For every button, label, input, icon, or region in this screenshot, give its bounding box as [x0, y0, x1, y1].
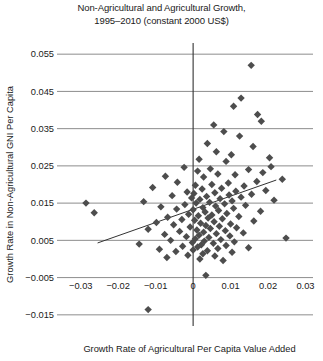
data-point-marker [157, 203, 164, 210]
x-tick-label: −0.01 [144, 281, 168, 291]
y-tick-label: 0.005 [31, 236, 54, 246]
data-point-marker [228, 151, 235, 158]
data-point-marker [222, 158, 229, 165]
data-point-marker [91, 209, 98, 216]
gridlines [62, 54, 313, 315]
data-point-marker [211, 252, 218, 259]
data-point-marker [170, 221, 177, 228]
x-tick-label: −0.02 [106, 281, 130, 291]
data-point-marker [214, 245, 221, 252]
x-tick-label: 0.03 [296, 281, 314, 291]
data-point-marker [228, 249, 235, 256]
data-point-marker [214, 170, 221, 177]
x-tick-label: 0.02 [259, 281, 277, 291]
data-point-marker [211, 189, 218, 196]
data-point-marker [245, 166, 252, 173]
data-point-marker [173, 205, 180, 212]
data-point-marker [236, 132, 243, 139]
data-point-marker [247, 62, 254, 69]
data-point-marker [266, 154, 273, 161]
data-point-marker [167, 237, 174, 244]
data-point-marker [240, 229, 247, 236]
data-point-marker [257, 208, 264, 215]
data-point-marker [221, 200, 228, 207]
data-point-marker [149, 184, 156, 191]
data-point-marker [253, 178, 260, 185]
x-tick-label: −0.03 [69, 281, 93, 291]
data-point-marker [195, 155, 202, 162]
data-point-marker [222, 227, 229, 234]
data-point-marker [144, 306, 151, 313]
data-point-marker [206, 199, 213, 206]
data-point-marker [217, 236, 224, 243]
data-point-marker [235, 213, 242, 220]
x-axis-ticks: −0.03−0.02−0.0100.010.020.03 [69, 281, 315, 291]
data-point-marker [226, 232, 233, 239]
data-point-marker [267, 163, 274, 170]
data-point-marker [174, 179, 181, 186]
data-point-marker [213, 230, 220, 237]
y-tick-label: 0.025 [31, 161, 54, 171]
data-point-marker [183, 233, 190, 240]
data-point-marker [161, 231, 168, 238]
y-axis-ticks: −0.015−0.0050.0050.0150.0250.0350.0450.0… [25, 49, 62, 320]
data-point-marker [213, 148, 220, 155]
data-point-marker [172, 248, 179, 255]
y-tick-label: 0.055 [31, 49, 54, 59]
data-point-marker [240, 182, 247, 189]
data-point-marker [181, 201, 188, 208]
data-point-marker [144, 225, 151, 232]
data-points [82, 62, 289, 314]
y-axis-label: Growth Rate in Non-Agricultural GNI Per … [5, 85, 15, 283]
data-point-marker [82, 199, 89, 206]
data-point-marker [179, 243, 186, 250]
data-point-marker [237, 193, 244, 200]
data-point-marker [180, 164, 187, 171]
data-point-marker [194, 167, 201, 174]
data-point-marker [230, 103, 237, 110]
data-point-marker [245, 244, 252, 251]
x-tick-label: 0 [191, 281, 196, 291]
data-point-marker [218, 185, 225, 192]
data-point-marker [164, 214, 171, 221]
data-point-marker [156, 246, 163, 253]
data-point-marker [259, 169, 266, 176]
chart-figure: Non-Agricultural and Agricultural Growth… [0, 0, 323, 361]
data-point-marker [219, 215, 226, 222]
data-point-marker [231, 171, 238, 178]
data-point-marker [163, 254, 170, 261]
data-point-marker [168, 192, 175, 199]
data-point-marker [219, 257, 226, 264]
data-point-marker [233, 224, 240, 231]
data-point-marker [230, 205, 237, 212]
data-point-marker [216, 223, 223, 230]
data-point-marker [153, 219, 160, 226]
data-point-marker [183, 188, 190, 195]
data-point-marker [140, 198, 147, 205]
data-point-marker [184, 252, 191, 259]
data-point-marker [210, 218, 217, 225]
data-point-marker [258, 117, 265, 124]
data-point-marker [254, 111, 261, 118]
data-point-marker [162, 173, 169, 180]
data-point-marker [231, 238, 238, 245]
data-point-marker [262, 187, 269, 194]
data-point-marker [176, 228, 183, 235]
data-point-marker [237, 94, 244, 101]
y-tick-label: 0.045 [31, 87, 54, 97]
data-point-marker [208, 181, 215, 188]
x-tick-label: 0.01 [222, 281, 240, 291]
scatter-plot: −0.015−0.0050.0050.0150.0250.0350.0450.0… [0, 0, 323, 361]
data-point-marker [198, 185, 205, 192]
data-point-marker [250, 217, 257, 224]
data-point-marker [200, 173, 207, 180]
data-point-marker [222, 242, 229, 249]
y-tick-label: −0.005 [25, 273, 54, 283]
data-point-marker [248, 190, 255, 197]
data-point-marker [249, 143, 256, 150]
x-axis-label: Growth Rate of Agricultural Per Capita V… [83, 344, 295, 354]
data-point-marker [135, 240, 142, 247]
data-point-marker [279, 176, 286, 183]
data-point-marker [178, 216, 185, 223]
data-point-marker [210, 121, 217, 128]
